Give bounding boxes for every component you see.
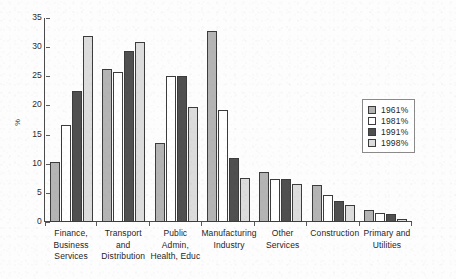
bar bbox=[207, 31, 217, 222]
y-tick-label: 35 bbox=[32, 12, 42, 22]
bar bbox=[334, 201, 344, 222]
bar bbox=[323, 195, 333, 222]
bar bbox=[72, 91, 82, 222]
y-tick-label: 5 bbox=[37, 187, 42, 197]
x-axis-category-label-line: Industry bbox=[201, 240, 256, 252]
y-tick-label: 10 bbox=[32, 158, 42, 168]
x-tick-mark bbox=[96, 222, 97, 226]
x-axis-category-label: Public Admin,Health, Educ bbox=[149, 228, 201, 263]
bar-group bbox=[97, 18, 149, 222]
bar bbox=[397, 219, 407, 222]
x-axis-category-label-line: Services bbox=[257, 240, 309, 252]
bar bbox=[155, 143, 165, 222]
bar bbox=[166, 76, 176, 222]
x-axis-category-label: OtherServices bbox=[257, 228, 309, 263]
x-tick-mark bbox=[149, 222, 150, 226]
legend-label: 1998% bbox=[381, 138, 408, 148]
legend-swatch bbox=[368, 106, 376, 114]
x-axis-category-label-line: Primary and bbox=[361, 228, 413, 240]
x-axis-category-label-line: Finance, Business bbox=[45, 228, 97, 251]
bar-group bbox=[307, 18, 359, 222]
x-axis-category-label: Primary andUtilities bbox=[361, 228, 413, 263]
legend-swatch bbox=[368, 117, 376, 125]
x-axis-category-label-line: Distribution bbox=[97, 251, 149, 263]
x-tick-mark bbox=[411, 222, 412, 226]
x-tick-mark bbox=[306, 222, 307, 226]
legend-swatch bbox=[368, 128, 376, 136]
y-axis-label: % bbox=[13, 119, 22, 126]
bar bbox=[218, 110, 228, 222]
x-axis-category-label-line: Public Admin, bbox=[149, 228, 201, 251]
bar-group bbox=[150, 18, 202, 222]
bar bbox=[240, 178, 250, 222]
legend-label: 1991% bbox=[381, 127, 408, 137]
bar bbox=[188, 107, 198, 222]
bar bbox=[113, 72, 123, 222]
bar bbox=[61, 125, 71, 222]
x-axis-category-label: Finance, BusinessServices bbox=[45, 228, 97, 263]
bar-group bbox=[255, 18, 307, 222]
x-axis-category-label: ManufacturingIndustry bbox=[201, 228, 256, 263]
legend-item: 1961% bbox=[368, 104, 408, 115]
bar bbox=[259, 172, 269, 222]
plot-area: 05101520253035 bbox=[44, 18, 412, 222]
bar bbox=[345, 205, 355, 222]
x-axis-labels: Finance, BusinessServicesTransport andDi… bbox=[45, 228, 413, 263]
y-tick-label: 30 bbox=[32, 41, 42, 51]
bar bbox=[312, 185, 322, 222]
legend-item: 1981% bbox=[368, 115, 408, 126]
bar bbox=[375, 213, 385, 222]
y-tick-label: 25 bbox=[32, 70, 42, 80]
x-tick-mark bbox=[254, 222, 255, 226]
x-tick-mark bbox=[201, 222, 202, 226]
x-axis-category-label: Construction bbox=[309, 228, 361, 263]
x-axis-category-label-line: Utilities bbox=[361, 240, 413, 252]
x-tick-mark bbox=[359, 222, 360, 226]
bar bbox=[229, 158, 239, 222]
bar bbox=[270, 179, 280, 222]
bar bbox=[281, 179, 291, 222]
bar bbox=[364, 210, 374, 222]
legend-label: 1981% bbox=[381, 116, 408, 126]
x-axis-category-label-line: Manufacturing bbox=[201, 228, 256, 240]
bar bbox=[83, 36, 93, 223]
x-axis-category-label-line: Construction bbox=[309, 228, 361, 240]
bar-group bbox=[45, 18, 97, 222]
bar bbox=[177, 76, 187, 222]
bar bbox=[292, 184, 302, 222]
y-tick-label: 0 bbox=[37, 216, 42, 226]
legend-swatch bbox=[368, 139, 376, 147]
x-axis-category-label-line: Health, Educ bbox=[149, 251, 201, 263]
bar bbox=[124, 51, 134, 222]
x-axis-category-label-line: Other bbox=[257, 228, 309, 240]
bar-groups bbox=[45, 18, 412, 222]
legend-item: 1998% bbox=[368, 137, 408, 148]
x-axis-category-label-line: Transport and bbox=[97, 228, 149, 251]
bar-group bbox=[202, 18, 254, 222]
y-tick-label: 15 bbox=[32, 129, 42, 139]
x-axis-category-label: Transport andDistribution bbox=[97, 228, 149, 263]
legend-item: 1991% bbox=[368, 126, 408, 137]
bar bbox=[102, 69, 112, 222]
chart-legend: 1961%1981%1991%1998% bbox=[362, 99, 415, 153]
x-tick-mark bbox=[45, 222, 46, 226]
x-axis-category-label-line: Services bbox=[45, 251, 97, 263]
y-tick-label: 20 bbox=[32, 99, 42, 109]
bar bbox=[135, 42, 145, 222]
bar bbox=[386, 214, 396, 222]
legend-label: 1961% bbox=[381, 105, 408, 115]
chart-page: 05101520253035 % Finance, BusinessServic… bbox=[0, 0, 456, 279]
y-tick-mark bbox=[46, 222, 50, 223]
bar bbox=[50, 162, 60, 222]
